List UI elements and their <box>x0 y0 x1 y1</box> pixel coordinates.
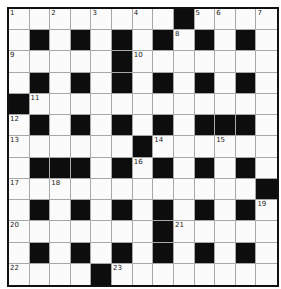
answer-cell[interactable] <box>174 73 195 94</box>
answer-cell[interactable]: 12 <box>9 115 30 136</box>
answer-cell[interactable] <box>195 94 216 115</box>
answer-cell[interactable] <box>215 200 236 221</box>
answer-cell[interactable] <box>112 9 133 30</box>
answer-cell[interactable] <box>215 243 236 264</box>
answer-cell[interactable] <box>153 9 174 30</box>
answer-cell[interactable] <box>133 221 154 242</box>
answer-cell[interactable] <box>236 221 257 242</box>
answer-cell[interactable] <box>215 94 236 115</box>
answer-cell[interactable] <box>50 200 71 221</box>
answer-cell[interactable]: 13 <box>9 136 30 157</box>
answer-cell[interactable] <box>91 158 112 179</box>
answer-cell[interactable]: 10 <box>133 51 154 72</box>
answer-cell[interactable]: 21 <box>174 221 195 242</box>
answer-cell[interactable]: 20 <box>9 221 30 242</box>
answer-cell[interactable] <box>133 243 154 264</box>
answer-cell[interactable] <box>195 51 216 72</box>
answer-cell[interactable] <box>236 136 257 157</box>
answer-cell[interactable] <box>256 94 277 115</box>
answer-cell[interactable]: 18 <box>50 179 71 200</box>
answer-cell[interactable] <box>236 9 257 30</box>
answer-cell[interactable] <box>9 30 30 51</box>
answer-cell[interactable] <box>50 115 71 136</box>
answer-cell[interactable] <box>50 136 71 157</box>
answer-cell[interactable] <box>256 221 277 242</box>
answer-cell[interactable] <box>174 158 195 179</box>
answer-cell[interactable] <box>133 200 154 221</box>
answer-cell[interactable] <box>91 30 112 51</box>
answer-cell[interactable] <box>112 179 133 200</box>
answer-cell[interactable] <box>215 221 236 242</box>
answer-cell[interactable]: 3 <box>91 9 112 30</box>
answer-cell[interactable] <box>174 200 195 221</box>
answer-cell[interactable] <box>236 264 257 285</box>
answer-cell[interactable]: 5 <box>195 9 216 30</box>
answer-cell[interactable] <box>50 94 71 115</box>
answer-cell[interactable] <box>153 94 174 115</box>
answer-cell[interactable]: 22 <box>9 264 30 285</box>
answer-cell[interactable] <box>91 243 112 264</box>
answer-cell[interactable]: 9 <box>9 51 30 72</box>
answer-cell[interactable] <box>50 73 71 94</box>
answer-cell[interactable]: 14 <box>153 136 174 157</box>
answer-cell[interactable] <box>112 136 133 157</box>
answer-cell[interactable] <box>71 94 92 115</box>
answer-cell[interactable] <box>71 179 92 200</box>
answer-cell[interactable]: 8 <box>174 30 195 51</box>
answer-cell[interactable]: 7 <box>256 9 277 30</box>
answer-cell[interactable] <box>215 73 236 94</box>
answer-cell[interactable] <box>195 136 216 157</box>
answer-cell[interactable] <box>71 221 92 242</box>
answer-cell[interactable] <box>174 179 195 200</box>
answer-cell[interactable] <box>71 9 92 30</box>
answer-cell[interactable] <box>133 30 154 51</box>
answer-cell[interactable] <box>256 115 277 136</box>
answer-cell[interactable] <box>256 51 277 72</box>
answer-cell[interactable] <box>133 115 154 136</box>
answer-cell[interactable]: 15 <box>215 136 236 157</box>
answer-cell[interactable] <box>215 179 236 200</box>
answer-cell[interactable] <box>71 264 92 285</box>
answer-cell[interactable] <box>50 264 71 285</box>
answer-cell[interactable] <box>133 73 154 94</box>
answer-cell[interactable] <box>256 264 277 285</box>
answer-cell[interactable]: 4 <box>133 9 154 30</box>
answer-cell[interactable] <box>9 158 30 179</box>
answer-cell[interactable] <box>174 264 195 285</box>
answer-cell[interactable] <box>112 221 133 242</box>
answer-cell[interactable] <box>9 243 30 264</box>
answer-cell[interactable] <box>50 221 71 242</box>
answer-cell[interactable]: 2 <box>50 9 71 30</box>
answer-cell[interactable] <box>174 51 195 72</box>
answer-cell[interactable] <box>30 136 51 157</box>
answer-cell[interactable] <box>236 94 257 115</box>
answer-cell[interactable]: 6 <box>215 9 236 30</box>
answer-cell[interactable] <box>215 264 236 285</box>
answer-cell[interactable]: 19 <box>256 200 277 221</box>
answer-cell[interactable]: 17 <box>9 179 30 200</box>
answer-cell[interactable] <box>174 115 195 136</box>
answer-cell[interactable] <box>256 30 277 51</box>
answer-cell[interactable] <box>133 264 154 285</box>
answer-cell[interactable] <box>91 73 112 94</box>
answer-cell[interactable] <box>133 179 154 200</box>
answer-cell[interactable] <box>174 94 195 115</box>
answer-cell[interactable] <box>91 94 112 115</box>
answer-cell[interactable] <box>30 9 51 30</box>
answer-cell[interactable] <box>9 200 30 221</box>
answer-cell[interactable] <box>215 158 236 179</box>
answer-cell[interactable] <box>256 73 277 94</box>
answer-cell[interactable] <box>195 221 216 242</box>
answer-cell[interactable]: 1 <box>9 9 30 30</box>
answer-cell[interactable] <box>91 221 112 242</box>
answer-cell[interactable] <box>91 179 112 200</box>
answer-cell[interactable] <box>50 51 71 72</box>
answer-cell[interactable] <box>71 136 92 157</box>
answer-cell[interactable] <box>30 221 51 242</box>
answer-cell[interactable] <box>256 136 277 157</box>
answer-cell[interactable] <box>236 51 257 72</box>
answer-cell[interactable] <box>91 136 112 157</box>
answer-cell[interactable] <box>30 51 51 72</box>
answer-cell[interactable] <box>195 179 216 200</box>
answer-cell[interactable]: 11 <box>30 94 51 115</box>
